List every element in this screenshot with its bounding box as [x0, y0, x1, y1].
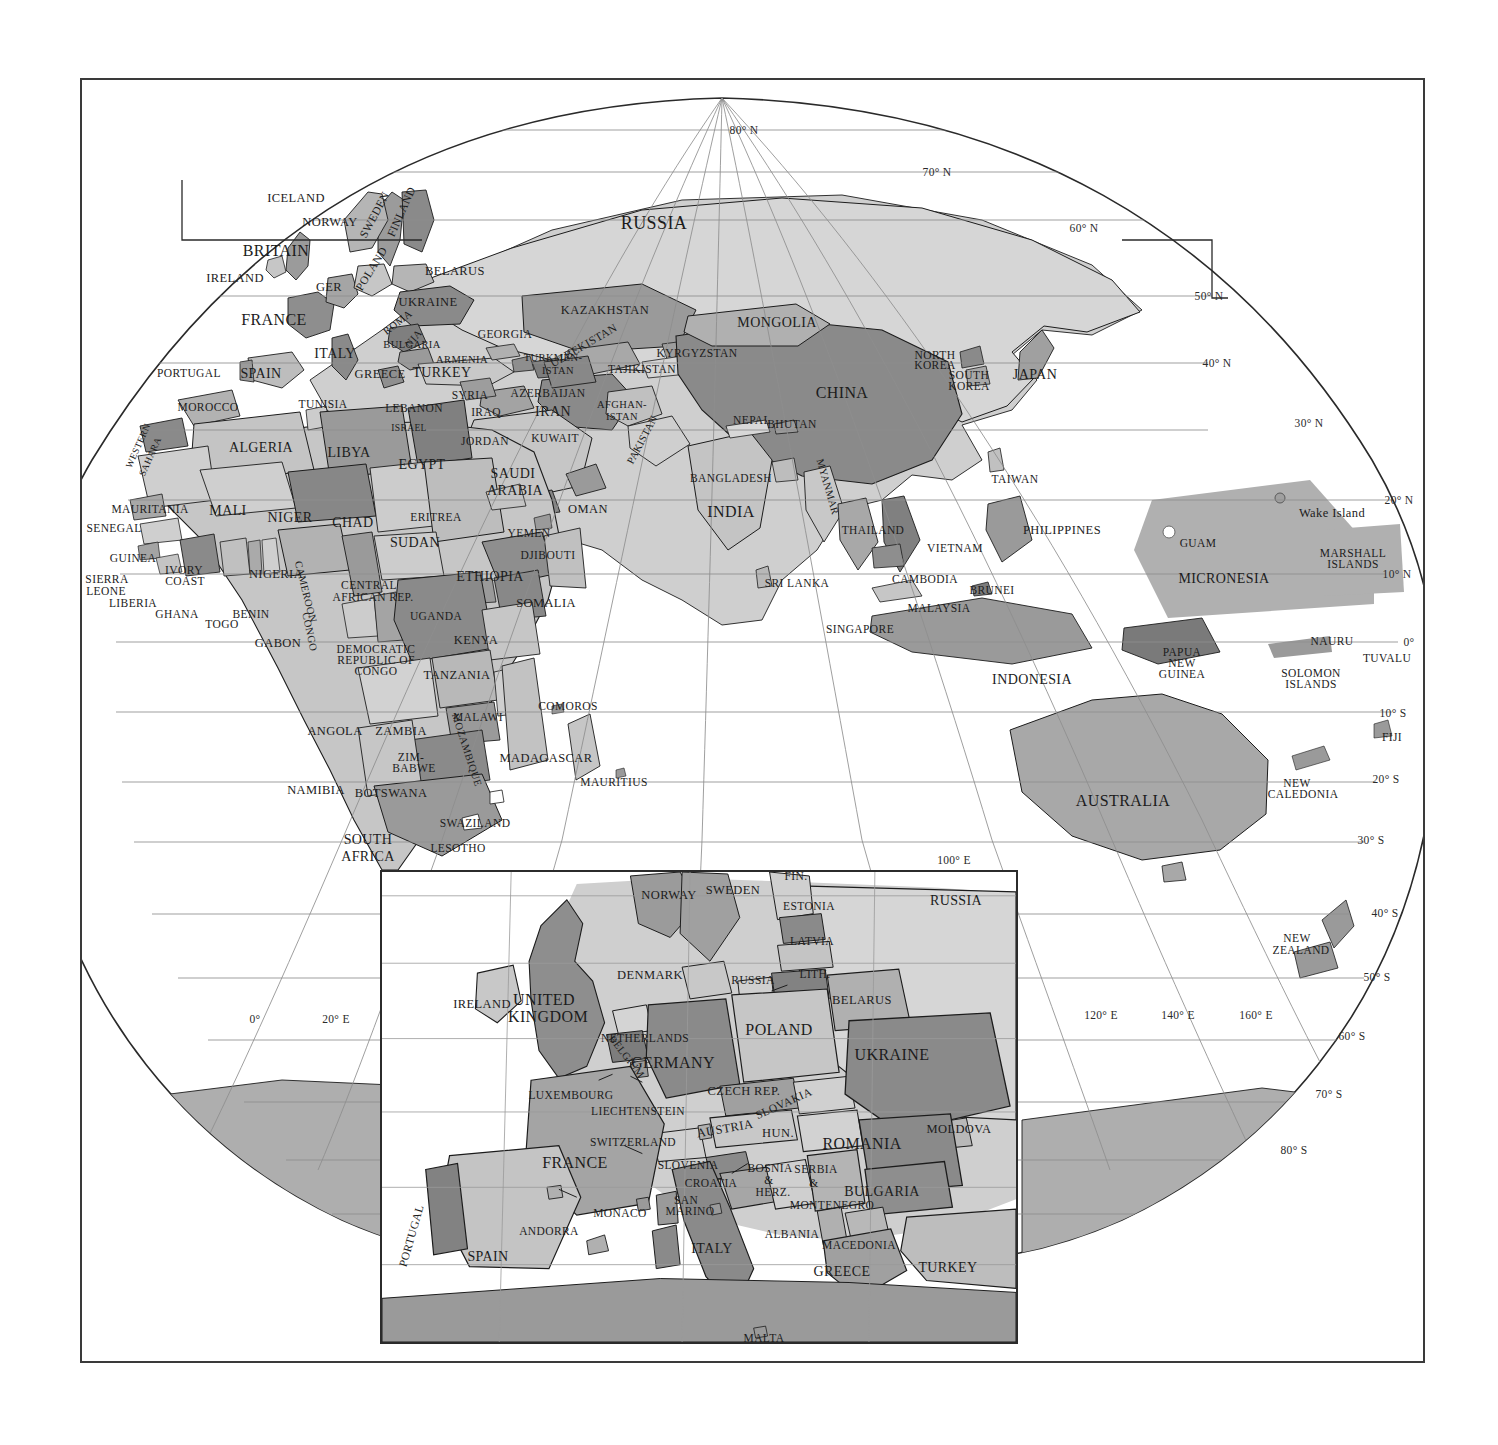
region-marshall-islands — [1322, 524, 1404, 596]
country-cambodia — [872, 544, 904, 568]
europe-inset-graphic[interactable] — [382, 872, 1016, 1342]
country-central-african-republic — [374, 532, 444, 580]
country-mali — [200, 462, 296, 516]
map-page: ICELANDNORWAYSWEDENFINLANDBRITAINIRELAND… — [0, 0, 1498, 1445]
country-ghana — [220, 538, 250, 576]
latitude-label-40-s: 40° S — [1372, 907, 1399, 919]
inset-country-denmark — [682, 961, 732, 999]
inset-country-latvia — [778, 941, 834, 971]
inset-country-liechtenstein — [698, 1124, 712, 1140]
latitude-label-0: 0° — [1404, 636, 1415, 648]
country-togo — [248, 540, 262, 574]
latitude-label-80-s: 80° S — [1281, 1144, 1308, 1156]
inset-country-belgium — [607, 1031, 649, 1063]
island-guam — [1163, 526, 1175, 538]
country-swaziland — [490, 790, 504, 804]
country-south-korea — [966, 366, 990, 386]
island-comoros — [552, 704, 564, 714]
latitude-label-70-n: 70° N — [923, 166, 952, 178]
inset-island-corsica — [656, 1191, 678, 1225]
country-zambia — [432, 650, 498, 708]
longitude-label-140-e: 140° E — [1161, 1009, 1195, 1021]
latitude-label-30-n: 30° N — [1295, 417, 1324, 429]
inset-country-estonia — [779, 914, 825, 944]
longitude-label-120-e: 120° E — [1084, 1009, 1118, 1021]
latitude-label-60-n: 60° N — [1070, 222, 1099, 234]
inset-country-hungary — [797, 1110, 863, 1152]
country-somalia — [544, 528, 586, 588]
country-drc — [394, 572, 494, 662]
country-ivory-coast — [180, 534, 220, 576]
longitude-label-160-e: 160° E — [1239, 1009, 1273, 1021]
longitude-label-20-e: 20° E — [322, 1013, 350, 1025]
inset-country-netherlands — [613, 1005, 653, 1035]
latitude-label-80-n: 80° N — [730, 124, 759, 136]
latitude-label-60-s: 60° S — [1339, 1030, 1366, 1042]
latitude-label-10-s: 10° S — [1380, 707, 1407, 719]
latitude-label-70-s: 70° S — [1316, 1088, 1343, 1100]
inset-country-bulgaria — [865, 1162, 952, 1216]
inset-island-malta — [754, 1326, 768, 1338]
country-iceland — [264, 186, 300, 208]
country-liberia — [156, 554, 182, 574]
map-plate-frame: ICELANDNORWAYSWEDENFINLANDBRITAINIRELAND… — [80, 78, 1425, 1363]
latitude-label-30-s: 30° S — [1358, 834, 1385, 846]
island-tasmania — [1162, 862, 1186, 882]
country-egypt — [408, 400, 472, 466]
landmass-antarctica-east — [1022, 1088, 1423, 1260]
inset-country-poland — [732, 989, 839, 1082]
country-syria — [460, 378, 496, 400]
latitude-label-10-n: 10° N — [1383, 568, 1412, 580]
island-mauritius — [616, 768, 626, 778]
inset-country-san-marino — [710, 1203, 722, 1215]
latitude-label-20-n: 20° N — [1385, 494, 1414, 506]
latitude-label-50-s: 50° S — [1364, 971, 1391, 983]
country-niger — [288, 464, 376, 522]
longitude-label-100-e: 100° E — [937, 854, 971, 866]
europe-inset-panel[interactable]: NORWAYSWEDENFIN.ESTONIADENMARKLATVIALITH… — [380, 870, 1018, 1344]
country-turkmenistan — [544, 356, 596, 388]
latitude-label-50-n: 50° N — [1195, 290, 1224, 302]
island-wake — [1275, 493, 1285, 503]
country-nigeria — [278, 524, 350, 576]
latitude-label-40-n: 40° N — [1203, 357, 1232, 369]
country-angola — [358, 658, 438, 724]
inset-country-serbia — [807, 1150, 865, 1211]
inset-country-monaco — [636, 1197, 650, 1211]
inset-country-germany — [646, 999, 739, 1098]
inset-island-sardinia — [652, 1225, 680, 1269]
latitude-label-20-s: 20° S — [1373, 773, 1400, 785]
longitude-label-0: 0° — [250, 1013, 261, 1025]
country-gabon — [342, 598, 378, 638]
country-tanzania — [482, 602, 540, 660]
country-chad — [370, 462, 434, 532]
